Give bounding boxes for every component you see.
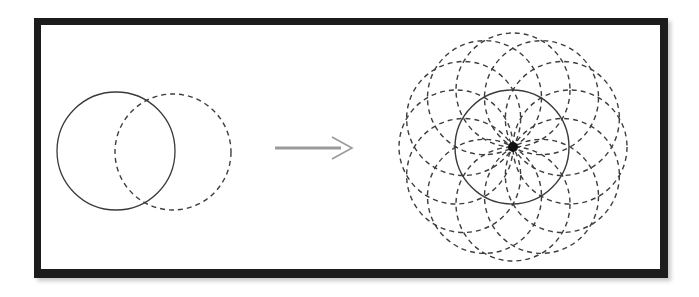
picture-frame — [34, 18, 668, 278]
figure-canvas: Rotation of a circle about a point on an… — [0, 0, 699, 297]
frame-interior — [41, 25, 660, 269]
